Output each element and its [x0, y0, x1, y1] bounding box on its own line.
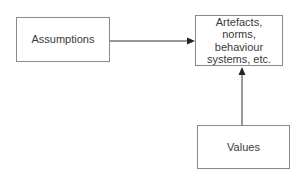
node-values-label: Values: [227, 141, 260, 154]
node-artefacts: Artefacts, norms, behaviour systems, etc…: [195, 15, 283, 66]
node-assumptions: Assumptions: [16, 17, 110, 62]
node-assumptions-label: Assumptions: [32, 33, 95, 46]
node-artefacts-label: Artefacts, norms, behaviour systems, etc…: [207, 16, 271, 66]
node-values: Values: [197, 125, 290, 169]
arrow-values-to-artefacts: [239, 67, 246, 125]
arrow-assumptions-to-artefacts: [110, 38, 195, 45]
